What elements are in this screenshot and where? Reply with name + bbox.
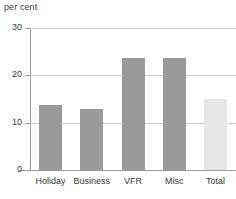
x-axis-line	[19, 170, 236, 171]
y-tick-mark-10	[25, 123, 30, 124]
bar-business	[80, 109, 103, 170]
plot-area	[30, 28, 236, 170]
bar-vfr	[122, 58, 145, 170]
bar-chart: per cent 0102030HolidayBusinessVFRMiscTo…	[0, 0, 236, 199]
y-tick-label-20: 20	[0, 69, 22, 79]
y-tick-label-30: 30	[0, 22, 22, 32]
x-axis-label-holiday: Holiday	[30, 176, 71, 186]
x-axis-label-business: Business	[71, 176, 112, 186]
y-tick-label-10: 10	[0, 117, 22, 127]
bar-holiday	[39, 105, 62, 170]
bar-total	[204, 99, 227, 170]
x-axis-label-total: Total	[195, 176, 236, 186]
y-tick-label-0: 0	[0, 164, 22, 174]
y-tick-mark-0	[25, 170, 30, 171]
x-axis-label-misc: Misc	[154, 176, 195, 186]
y-tick-mark-20	[25, 75, 30, 76]
y-axis-title: per cent	[4, 2, 37, 12]
y-tick-mark-30	[25, 28, 30, 29]
bar-misc	[163, 58, 186, 170]
gridline-30	[30, 28, 236, 29]
x-axis-label-vfr: VFR	[112, 176, 153, 186]
